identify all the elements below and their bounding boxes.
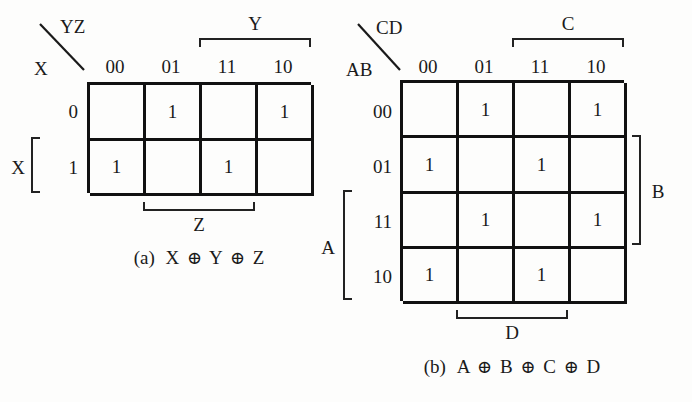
kmap-b-cell-r2c0 [403, 194, 459, 249]
kmap-b-caption-term-0: A [457, 356, 470, 377]
kmap-b-top-variables: CD [376, 18, 402, 37]
kmap-a-corner-header: YZ X [34, 14, 94, 80]
kmap-b-cell-r2c3: 1 [571, 194, 627, 249]
kmap-a-bracket-x [31, 137, 40, 193]
kmap-a-caption: (a) X ⊕ Y ⊕ Z [99, 248, 299, 267]
kmap-b-side-variables: AB [346, 60, 372, 79]
kmap-a-bracket-y-label: Y [229, 14, 281, 33]
xor-icon-b2: ⊕ [520, 358, 535, 376]
kmap-b-grid: 1 1 1 1 1 1 1 1 [400, 80, 624, 301]
kmap-a-cell-r0c3: 1 [258, 85, 314, 141]
kmap-a-side-variables: X [34, 59, 48, 78]
figure-canvas: YZ X Y 00 01 11 10 0 1 X 1 1 1 1 Z (a) X… [0, 0, 692, 402]
kmap-b-row-header-0: 00 [352, 102, 392, 121]
kmap-a-cell-r1c2: 1 [202, 141, 258, 197]
kmap-b-caption-term-2: C [543, 356, 556, 377]
kmap-b-row-header-3: 10 [352, 267, 392, 286]
kmap-b-column-header-3: 10 [568, 57, 624, 76]
kmap-b-cell-r0c0 [403, 83, 459, 138]
kmap-a-row-header-0: 0 [40, 102, 78, 121]
kmap-a-bracket-z-label: Z [173, 215, 225, 234]
kmap-b-caption-term-3: D [587, 356, 601, 377]
kmap-a-column-header-2: 11 [199, 57, 255, 76]
kmap-a-bracket-y [199, 38, 311, 47]
kmap-a-column-header-3: 10 [255, 57, 311, 76]
xor-icon-a2: ⊕ [230, 249, 245, 267]
kmap-a-cell-r0c2 [202, 85, 258, 141]
kmap-b-cell-r3c2: 1 [515, 249, 571, 304]
kmap-b-cell-r1c0: 1 [403, 138, 459, 193]
kmap-a-cell-r0c0 [90, 85, 146, 141]
kmap-b-caption-prefix: (b) [424, 356, 446, 377]
kmap-b-cell-r0c3: 1 [571, 83, 627, 138]
kmap-b-bracket-d [456, 310, 568, 319]
kmap-a-cell-r1c0: 1 [90, 141, 146, 197]
kmap-b-cell-r1c3 [571, 138, 627, 193]
kmap-b-cell-r2c2 [515, 194, 571, 249]
kmap-a-cell-r1c1 [146, 141, 202, 197]
kmap-a-top-variables: YZ [60, 17, 85, 36]
kmap-b-column-header-0: 00 [400, 57, 456, 76]
kmap-b-row-header-2: 11 [352, 212, 392, 231]
kmap-b-row-header-1: 01 [352, 157, 392, 176]
kmap-a-bracket-z [143, 202, 255, 211]
kmap-b-bracket-c [512, 38, 624, 47]
kmap-b-column-header-1: 01 [456, 57, 512, 76]
kmap-b-bracket-b-label: B [648, 182, 668, 201]
kmap-a-row-header-1: 1 [40, 158, 78, 177]
kmap-b-bracket-a [343, 190, 352, 300]
kmap-b-cell-r2c1: 1 [459, 194, 515, 249]
kmap-b-cell-r1c1 [459, 138, 515, 193]
kmap-a-caption-term-0: X [165, 247, 179, 268]
kmap-b-cell-r3c0: 1 [403, 249, 459, 304]
kmap-a-cell-r0c1: 1 [146, 85, 202, 141]
kmap-a-cell-r1c3 [258, 141, 314, 197]
kmap-b-bracket-c-label: C [542, 14, 594, 33]
kmap-a-column-header-1: 01 [143, 57, 199, 76]
kmap-b-cell-r0c1: 1 [459, 83, 515, 138]
kmap-b-caption: (b) A ⊕ B ⊕ C ⊕ D [387, 357, 637, 376]
kmap-b-cell-r0c2 [515, 83, 571, 138]
kmap-b-bracket-b [632, 135, 641, 245]
xor-icon-a1: ⊕ [187, 249, 202, 267]
kmap-a-caption-prefix: (a) [134, 247, 155, 268]
kmap-a-grid: 1 1 1 1 [87, 82, 311, 193]
kmap-b-bracket-a-label: A [318, 238, 338, 257]
xor-icon-b1: ⊕ [477, 358, 492, 376]
kmap-b-bracket-d-label: D [486, 323, 538, 342]
kmap-b-cell-r1c2: 1 [515, 138, 571, 193]
kmap-b-cell-r3c3 [571, 249, 627, 304]
kmap-a-caption-term-2: Z [253, 247, 265, 268]
xor-icon-b3: ⊕ [564, 358, 579, 376]
kmap-a-bracket-x-label: X [8, 158, 28, 177]
kmap-b-caption-term-1: B [500, 356, 513, 377]
kmap-a-caption-term-1: Y [209, 247, 222, 268]
kmap-b-column-header-2: 11 [512, 57, 568, 76]
kmap-b-cell-r3c1 [459, 249, 515, 304]
kmap-a-column-header-0: 00 [87, 57, 143, 76]
